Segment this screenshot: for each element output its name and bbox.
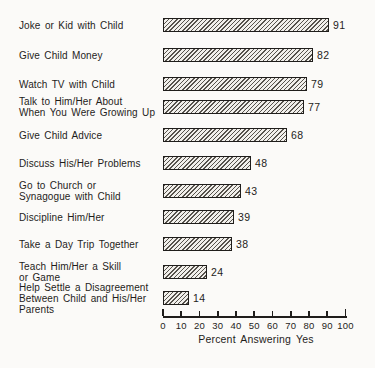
category-label: Take a Day Trip Together xyxy=(19,239,161,250)
x-axis-line xyxy=(163,316,347,318)
bar-value: 38 xyxy=(236,237,248,251)
category-label-line: Between Child and His/Her xyxy=(19,293,161,304)
x-tick xyxy=(162,309,164,316)
x-tick xyxy=(235,311,237,316)
x-tick xyxy=(217,311,219,316)
bar-value: 48 xyxy=(255,156,267,170)
bar-value: 43 xyxy=(245,184,257,198)
category-label-line: Synagogue with Child xyxy=(19,191,161,202)
x-tick-label: 10 xyxy=(176,320,187,331)
x-tick xyxy=(326,311,328,316)
x-tick xyxy=(290,311,292,316)
category-label: Help Settle a DisagreementBetween Child … xyxy=(19,282,161,315)
category-label-line: Take a Day Trip Together xyxy=(19,239,161,250)
x-tick-label: 100 xyxy=(337,320,353,331)
category-label-line: Give Child Money xyxy=(19,50,161,61)
x-tick-label: 50 xyxy=(249,320,260,331)
bar-value: 39 xyxy=(238,210,250,224)
category-label-line: Give Child Advice xyxy=(19,130,161,141)
bar xyxy=(163,184,241,198)
x-tick-label: 60 xyxy=(267,320,278,331)
x-tick-label: 80 xyxy=(304,320,315,331)
bar xyxy=(163,100,304,114)
bar xyxy=(163,265,207,279)
bar-value: 79 xyxy=(311,77,323,91)
x-tick-label: 40 xyxy=(231,320,242,331)
category-label-line: Discuss His/Her Problems xyxy=(19,158,161,169)
category-label: Go to Church orSynagogue with Child xyxy=(19,180,161,202)
category-label: Talk to Him/Her AboutWhen You Were Growi… xyxy=(19,96,161,118)
bar-value: 91 xyxy=(333,18,345,32)
category-label-line: Discipline Him/Her xyxy=(19,212,161,223)
bar-value: 68 xyxy=(291,128,303,142)
x-tick xyxy=(180,311,182,316)
category-label-line: Parents xyxy=(19,304,161,315)
bar xyxy=(163,291,189,305)
bar xyxy=(163,237,232,251)
category-label: Watch TV with Child xyxy=(19,79,161,90)
category-label-line: Help Settle a Disagreement xyxy=(19,282,161,293)
category-label-line: Watch TV with Child xyxy=(19,79,161,90)
category-label: Discuss His/Her Problems xyxy=(19,158,161,169)
category-label-line: Joke or Kid with Child xyxy=(19,20,161,31)
category-label-line: Go to Church or xyxy=(19,180,161,191)
bar-value: 82 xyxy=(317,48,329,62)
bar xyxy=(163,18,329,32)
x-tick-label: 70 xyxy=(285,320,296,331)
x-tick xyxy=(253,311,255,316)
bar xyxy=(163,48,313,62)
x-axis-title: Percent Answering Yes xyxy=(198,333,314,345)
x-tick-label: 90 xyxy=(322,320,333,331)
x-tick-label: 20 xyxy=(194,320,205,331)
x-tick-label: 0 xyxy=(160,320,165,331)
category-label-line: When You Were Growing Up xyxy=(19,107,161,118)
category-label-line: Teach Him/Her a Skill xyxy=(19,261,161,272)
category-label: Joke or Kid with Child xyxy=(19,20,161,31)
x-tick-label: 30 xyxy=(212,320,223,331)
x-tick xyxy=(345,309,347,316)
category-label: Discipline Him/Her xyxy=(19,212,161,223)
category-label: Teach Him/Her a Skillor Game xyxy=(19,261,161,283)
x-tick xyxy=(308,311,310,316)
bar xyxy=(163,210,234,224)
x-tick xyxy=(272,311,274,316)
category-label-line: Talk to Him/Her About xyxy=(19,96,161,107)
bar-value: 14 xyxy=(193,291,205,305)
x-tick xyxy=(199,311,201,316)
bar xyxy=(163,128,287,142)
bar xyxy=(163,77,307,91)
category-label: Give Child Advice xyxy=(19,130,161,141)
bar-chart: Joke or Kid with Child91Give Child Money… xyxy=(0,0,375,368)
bar xyxy=(163,156,251,170)
bar-value: 77 xyxy=(308,100,320,114)
category-label: Give Child Money xyxy=(19,50,161,61)
bar-value: 24 xyxy=(211,265,223,279)
